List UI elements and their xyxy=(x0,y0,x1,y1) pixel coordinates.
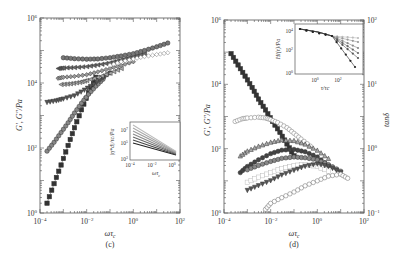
data-point xyxy=(162,51,166,55)
data-point xyxy=(154,52,158,56)
data-point xyxy=(296,167,300,171)
data-point xyxy=(150,46,154,50)
panel-c-chart: 100 102 104 106 10−4 10−2 100 102 ωτc (c… xyxy=(15,14,186,249)
c-inset-xlabel: ωτc xyxy=(152,170,160,178)
d-ytick-2: 104 xyxy=(211,80,222,89)
data-point xyxy=(268,179,272,183)
d-xtick-0: 10−4 xyxy=(218,217,231,226)
data-point xyxy=(256,158,260,162)
data-point xyxy=(292,168,296,172)
panel-d-inset: 104 102 100 100 102 τ/τc Hl(τ)/Pa xyxy=(275,24,363,91)
data-point xyxy=(69,95,73,99)
data-point xyxy=(84,64,88,68)
data-point xyxy=(307,182,311,186)
data-point xyxy=(288,147,292,151)
data-point xyxy=(249,187,253,191)
data-series xyxy=(45,77,105,153)
data-point xyxy=(146,47,150,51)
data-point xyxy=(264,180,268,184)
data-point xyxy=(150,53,154,57)
data-point xyxy=(326,174,330,178)
data-point xyxy=(256,144,260,148)
data-point xyxy=(127,52,131,56)
data-point xyxy=(284,165,288,169)
data-point xyxy=(104,67,108,71)
d-ytick-1: 102 xyxy=(211,145,222,154)
c-xtick-0: 10−4 xyxy=(34,217,47,226)
data-point xyxy=(311,157,315,161)
data-point xyxy=(253,185,257,189)
data-point xyxy=(72,94,76,98)
d-inset-xtick-0: 100 xyxy=(311,77,319,83)
data-point xyxy=(264,154,268,158)
panel-d-xlabel: ωτc xyxy=(289,229,301,239)
d-inset-ytick-4: 104 xyxy=(286,28,294,34)
d-inset-ylabel: Hl(τ)/Pa xyxy=(275,39,282,60)
inset-data-point xyxy=(347,36,349,38)
data-point xyxy=(256,184,260,188)
panel-d-chart: 100 102 104 106 10−1 100 101 102 10−4 10… xyxy=(203,16,391,249)
inset-data-point xyxy=(340,47,342,49)
inset-data-point xyxy=(352,53,354,55)
data-point xyxy=(80,57,84,61)
inset-data-point xyxy=(341,37,343,39)
data-point xyxy=(303,184,307,188)
c-inset-ytick-5: 105 xyxy=(121,140,129,146)
data-point xyxy=(245,188,249,192)
d-inset-xtick-1: 102 xyxy=(334,77,342,83)
data-point xyxy=(345,176,349,180)
d-inset-xlabel: τ/τc xyxy=(321,85,330,91)
data-point xyxy=(75,120,79,124)
data-point xyxy=(142,48,146,52)
data-point xyxy=(260,173,264,177)
inset-data-point xyxy=(331,35,333,37)
data-point xyxy=(319,151,323,155)
data-point xyxy=(326,169,330,173)
d-inset-ytick-2: 102 xyxy=(286,47,294,53)
data-point xyxy=(288,155,292,159)
inset-data-point xyxy=(305,29,307,31)
panel-c-label: (c) xyxy=(106,240,115,249)
data-point xyxy=(104,56,108,60)
data-point xyxy=(280,148,284,152)
data-point xyxy=(54,175,58,179)
inset-data-point xyxy=(318,32,320,34)
data-point xyxy=(45,201,49,205)
data-point xyxy=(64,150,68,154)
data-point xyxy=(280,166,284,170)
data-point xyxy=(66,143,70,147)
d-xtick-1: 10−2 xyxy=(265,217,278,226)
data-point xyxy=(260,143,264,147)
data-point xyxy=(96,57,100,61)
inset-data-point xyxy=(357,47,359,49)
data-point xyxy=(61,156,65,160)
d-xtick-2: 100 xyxy=(312,217,323,226)
inset-data-point xyxy=(341,44,343,46)
c-inset-xtick-0: 10−4 xyxy=(125,162,135,168)
panel-d-xticklabels: 10−4 10−2 100 102 xyxy=(218,217,370,226)
inset-data-point xyxy=(312,31,314,33)
data-point xyxy=(264,172,268,176)
panel-c-inset: 107 105 103 10−4 10−2 100 ωτc |η*d|/τc/P… xyxy=(109,122,180,178)
data-point xyxy=(303,156,307,160)
data-point xyxy=(72,56,76,60)
data-point xyxy=(299,166,303,170)
panel-c-xticklabels: 10−4 10−2 100 102 xyxy=(34,217,186,226)
data-point xyxy=(57,169,61,173)
data-point xyxy=(166,41,170,45)
inset-data-point xyxy=(357,37,359,39)
data-point xyxy=(76,74,80,78)
c-ytick-3: 106 xyxy=(27,14,38,23)
data-point xyxy=(307,151,311,155)
panel-d-yticklabels: 100 102 104 106 xyxy=(211,16,222,218)
data-point xyxy=(307,156,311,160)
inset-data-point xyxy=(357,57,359,59)
inset-data-point xyxy=(341,42,343,44)
d-inset-ytick-0: 100 xyxy=(286,70,294,76)
data-point xyxy=(260,162,264,166)
inset-data-point xyxy=(357,52,359,54)
data-point xyxy=(68,137,72,141)
inset-data-point xyxy=(352,37,354,39)
inset-data-point xyxy=(352,49,354,51)
inset-data-point xyxy=(354,66,356,68)
